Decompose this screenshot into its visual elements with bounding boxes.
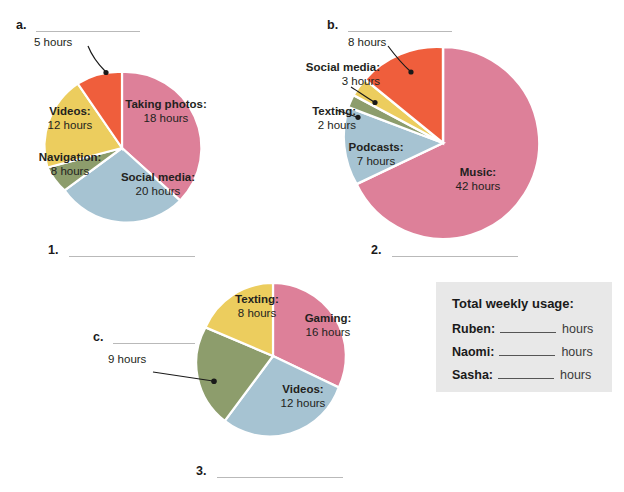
chart-b-label-podcasts: Podcasts: 7 hours — [333, 140, 419, 168]
chart-c-callout-dot-9 — [211, 378, 217, 384]
chart-b-callout-dot-social-media — [372, 100, 377, 105]
answer-line-3: 3. — [196, 464, 343, 478]
chart-a-label-social-media-value: 20 hours — [110, 184, 206, 198]
total-weekly-usage-box: Total weekly usage: Ruben: hours Naomi: … — [436, 282, 612, 392]
chart-b-label-music-value: 42 hours — [437, 179, 519, 193]
chart-b-label-social-media: Social media: 3 hours — [276, 60, 380, 89]
total-row-sasha-input[interactable] — [498, 378, 554, 379]
chart-a-label-social-media: Social media: 20 hours — [110, 170, 206, 198]
total-row-sasha: Sasha: hours — [452, 368, 612, 382]
chart-c-label-gaming-name: Gaming: — [288, 311, 368, 325]
total-row-ruben-unit: hours — [562, 322, 593, 336]
chart-b-label-music-name: Music: — [437, 165, 519, 179]
chart-a-callout-dot — [103, 70, 108, 75]
chart-a-callout-leader — [88, 46, 105, 71]
answer-line-3-blank[interactable] — [217, 477, 343, 478]
total-row-naomi: Naomi: hours — [452, 345, 612, 359]
chart-c-label-texting: Texting: 8 hours — [217, 292, 297, 320]
chart-b-label-music: Music: 42 hours — [437, 165, 519, 193]
total-row-ruben: Ruben: hours — [452, 322, 612, 336]
chart-a-label-navigation-name: Navigation: — [28, 150, 112, 164]
chart-a-label-videos-name: Videos: — [30, 104, 110, 118]
chart-b-label-social-media-name: Social media: — [276, 60, 380, 74]
chart-b-label-podcasts-name: Podcasts: — [333, 140, 419, 154]
chart-b-label-texting-value: 2 hours — [276, 118, 356, 132]
chart-c-label-texting-name: Texting: — [217, 292, 297, 306]
chart-b-label-texting: Texting: 2 hours — [276, 104, 356, 133]
chart-c-label-videos: Videos: 12 hours — [262, 382, 344, 410]
chart-b-label-texting-name: Texting: — [276, 104, 356, 118]
answer-line-1-number: 1. — [48, 243, 58, 257]
total-row-naomi-unit: hours — [561, 345, 592, 359]
answer-line-2-blank[interactable] — [392, 256, 518, 257]
chart-b-callout-dot-texting — [355, 115, 360, 120]
total-weekly-usage-title: Total weekly usage: — [452, 296, 612, 311]
chart-b-callout-dot-8 — [408, 69, 413, 74]
chart-b-label-podcasts-value: 7 hours — [333, 154, 419, 168]
chart-c-callout-9-hours: 9 hours — [108, 353, 146, 365]
total-row-naomi-name: Naomi: — [452, 345, 494, 359]
chart-c-label-texting-value: 8 hours — [217, 306, 297, 320]
total-row-naomi-input[interactable] — [499, 355, 555, 356]
chart-a-label-social-media-name: Social media: — [110, 170, 206, 184]
chart-c-label-gaming: Gaming: 16 hours — [288, 311, 368, 339]
chart-b-callout-8-hours: 8 hours — [348, 36, 386, 48]
chart-c-label-videos-value: 12 hours — [262, 396, 344, 410]
chart-a-label-taking-photos-value: 18 hours — [118, 111, 214, 125]
total-row-ruben-name: Ruben: — [452, 322, 495, 336]
answer-line-3-number: 3. — [196, 464, 206, 478]
chart-a-label-taking-photos: Taking photos: 18 hours — [118, 97, 214, 125]
chart-c-pie — [100, 250, 400, 492]
chart-c-label-videos-name: Videos: — [262, 382, 344, 396]
chart-a-label-navigation-value: 8 hours — [28, 164, 112, 178]
chart-a-label-navigation: Navigation: 8 hours — [28, 150, 112, 178]
total-row-sasha-name: Sasha: — [452, 368, 493, 382]
chart-a-label-taking-photos-name: Taking photos: — [118, 97, 214, 111]
chart-a-label-videos: Videos: 12 hours — [30, 104, 110, 132]
worksheet-canvas: a. 5 hours Taking photos: 18 hours Socia… — [0, 0, 624, 492]
chart-a-callout-5-hours: 5 hours — [34, 36, 72, 48]
chart-c-label-gaming-value: 16 hours — [288, 325, 368, 339]
total-row-ruben-input[interactable] — [500, 332, 556, 333]
total-row-sasha-unit: hours — [560, 368, 591, 382]
chart-a-label-videos-value: 12 hours — [30, 118, 110, 132]
chart-b-label-social-media-value: 3 hours — [276, 74, 380, 88]
